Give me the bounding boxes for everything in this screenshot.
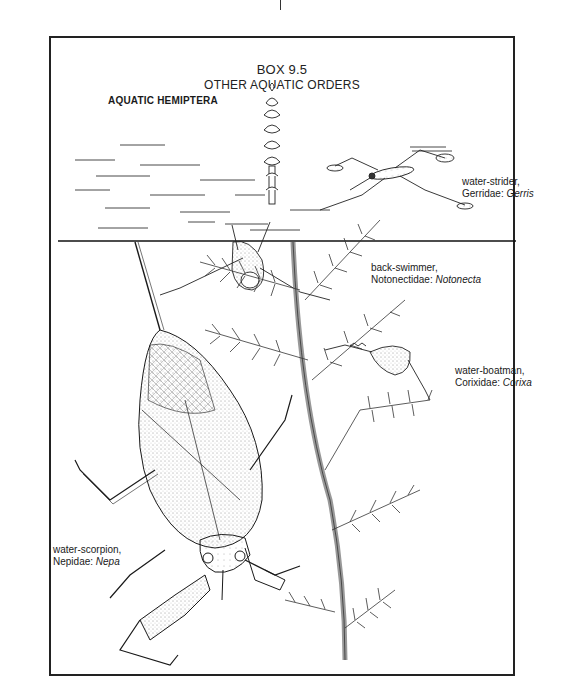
- plant-frond-upper: [200, 220, 380, 300]
- common-name: back-swimmer,: [371, 262, 481, 274]
- genus-name: Gerris: [506, 188, 533, 199]
- label-back-swimmer: back-swimmer, Notonectidae: Notonecta: [371, 262, 481, 286]
- common-name: water-scorpion,: [53, 544, 121, 556]
- common-name: water-strider,: [462, 176, 534, 188]
- family-name: Gerridae:: [462, 188, 504, 199]
- water-scorpion-drawing: [75, 242, 300, 665]
- genus-name: Nepa: [96, 556, 120, 567]
- common-name: water-boatman,: [455, 365, 532, 377]
- label-water-scorpion: water-scorpion, Nepidae: Nepa: [53, 544, 121, 568]
- family-name: Corixidae:: [455, 377, 500, 388]
- water-ripples: [75, 145, 452, 230]
- water-strider-drawing: [320, 150, 473, 210]
- family-name: Notonectidae:: [371, 274, 433, 285]
- family-name: Nepidae:: [53, 556, 93, 567]
- label-water-strider: water-strider, Gerridae: Gerris: [462, 176, 534, 200]
- genus-name: Notonecta: [436, 274, 482, 285]
- genus-name: Corixa: [503, 377, 532, 388]
- water-boatman-drawing: [325, 343, 430, 400]
- back-swimmer-drawing: [160, 222, 330, 300]
- plant-frond-lower: [285, 390, 432, 628]
- emergent-plant: [264, 83, 280, 204]
- label-water-boatman: water-boatman, Corixidae: Corixa: [455, 365, 532, 389]
- section-heading: AQUATIC HEMIPTERA: [108, 95, 218, 106]
